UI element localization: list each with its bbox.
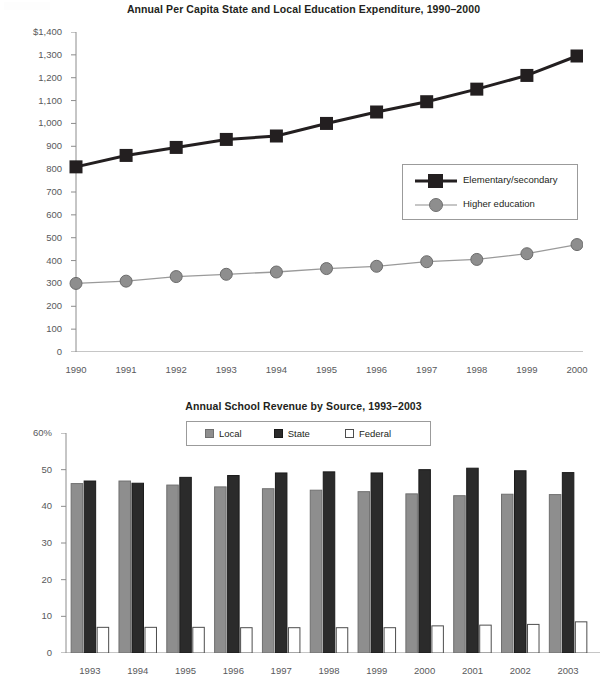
chart1-y-tick: 1,300 <box>12 49 62 60</box>
chart2-x-tick: 1996 <box>211 665 255 676</box>
chart2-x-tick: 1998 <box>307 665 351 676</box>
chart1-title: Annual Per Capita State and Local Educat… <box>0 3 607 15</box>
legend-label-higher-education: Higher education <box>463 198 535 209</box>
chart1-x-tick: 1992 <box>154 364 198 375</box>
chart1-y-tick: 1,200 <box>12 72 62 83</box>
chart2-x-tick: 1997 <box>259 665 303 676</box>
chart-page: Annual Per Capita State and Local Educat… <box>0 0 607 687</box>
chart1-x-tick: 1996 <box>355 364 399 375</box>
chart1-y-tick: 1,100 <box>12 95 62 106</box>
chart2-x-tick: 1994 <box>116 665 160 676</box>
chart1-x-tick: 1999 <box>505 364 549 375</box>
chart2-x-tick: 2001 <box>450 665 494 676</box>
legend-entry-higher-education: Higher education <box>403 193 577 217</box>
bar-chart-school-revenue: Annual School Revenue by Source, 1993–20… <box>0 395 607 687</box>
chart2-y-tick: 0 <box>8 647 52 658</box>
chart1-y-tick: 100 <box>12 323 62 334</box>
chart2-y-tick: 60% <box>8 427 52 438</box>
chart1-x-tick: 1997 <box>405 364 449 375</box>
chart1-x-tick: 2000 <box>555 364 599 375</box>
chart1-y-tick: 900 <box>12 140 62 151</box>
chart1-y-tick: 1,000 <box>12 117 62 128</box>
chart1-x-tick: 1995 <box>305 364 349 375</box>
chart2-y-tick: 50 <box>8 464 52 475</box>
chart2-x-tick: 1995 <box>164 665 208 676</box>
legend-marker-circle-icon <box>415 197 457 213</box>
chart2-x-tick: 1993 <box>68 665 112 676</box>
chart1-x-tick: 1991 <box>104 364 148 375</box>
chart2-plot-area <box>60 433 600 653</box>
chart1-y-tick: 200 <box>12 300 62 311</box>
chart1-y-tick: 0 <box>12 346 62 357</box>
chart2-x-tick: 2003 <box>546 665 590 676</box>
chart1-y-tick: 700 <box>12 186 62 197</box>
chart2-svg <box>60 433 600 653</box>
line-chart-education-expenditure: Annual Per Capita State and Local Educat… <box>0 0 607 390</box>
chart1-x-tick: 1993 <box>204 364 248 375</box>
chart2-title: Annual School Revenue by Source, 1993–20… <box>0 400 607 412</box>
chart2-x-tick: 2000 <box>403 665 447 676</box>
chart2-y-tick: 10 <box>8 610 52 621</box>
chart1-x-tick: 1998 <box>455 364 499 375</box>
legend-marker-square-icon <box>415 173 457 189</box>
chart1-y-tick: 300 <box>12 277 62 288</box>
chart1-x-tick: 1994 <box>254 364 298 375</box>
chart1-x-tick: 1990 <box>54 364 98 375</box>
chart2-y-tick: 20 <box>8 574 52 585</box>
chart1-y-tick: 600 <box>12 209 62 220</box>
chart2-y-tick: 30 <box>8 537 52 548</box>
legend-label-elementary-secondary: Elementary/secondary <box>463 174 558 185</box>
chart2-x-tick: 1999 <box>355 665 399 676</box>
chart1-y-tick: 800 <box>12 163 62 174</box>
legend-entry-elementary-secondary: Elementary/secondary <box>403 169 577 193</box>
chart1-y-tick: $1,400 <box>12 26 62 37</box>
chart2-x-tick: 2002 <box>498 665 542 676</box>
chart1-y-tick: 400 <box>12 255 62 266</box>
chart2-y-tick: 40 <box>8 500 52 511</box>
chart1-legend: Elementary/secondary Higher education <box>402 164 578 220</box>
chart1-y-tick: 500 <box>12 232 62 243</box>
